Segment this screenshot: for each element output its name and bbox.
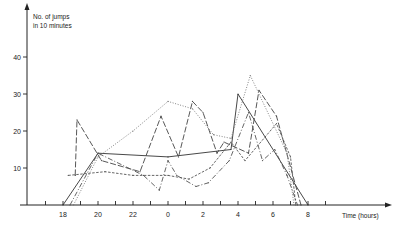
series-dotted-point: [132, 130, 133, 131]
series-long-dash-point: [216, 153, 217, 154]
series-long-dash-point: [202, 112, 203, 113]
series-short-dash-point: [290, 156, 291, 157]
series-dotted-point: [167, 101, 168, 102]
series-long-dash-point: [160, 116, 161, 117]
x-tick-label: 18: [59, 211, 67, 218]
x-axis: [20, 203, 392, 208]
x-tick-label: 0: [166, 211, 170, 218]
series-dotted-point: [293, 204, 294, 205]
y-axis-title-line-2: in 10 minutes: [33, 22, 72, 29]
series-long-dash-point: [248, 153, 249, 154]
series-solid-point: [62, 204, 63, 205]
series-solid-point: [307, 204, 308, 205]
series-dotted-point: [192, 108, 193, 109]
x-tick-label: 8: [306, 211, 310, 218]
series-short-dash-point: [276, 123, 277, 124]
series-short-dash: [68, 123, 297, 206]
series-dash-dot-point: [167, 160, 168, 161]
series-short-dash-point: [244, 160, 245, 161]
series-long-dash-point: [139, 171, 140, 172]
series-solid-line: [63, 94, 308, 205]
series-dash-dot-point: [229, 160, 230, 161]
series-dash-dot-point: [208, 182, 209, 183]
y-axis: [25, 3, 30, 205]
series-long-dash-point: [178, 156, 179, 157]
series-dotted-point: [73, 204, 74, 205]
series-dotted-point: [230, 138, 231, 139]
x-tick-label: 4: [236, 211, 240, 218]
x-tick-label: 20: [94, 211, 102, 218]
y-tick-label: 30: [13, 91, 21, 98]
series-dash-dot-point: [286, 175, 287, 176]
series-dotted-point: [250, 75, 251, 76]
series-dotted-point: [97, 156, 98, 157]
line-chart: No. of jumps in 10 minutes Time (hours) …: [0, 0, 401, 225]
series-dotted-point: [213, 134, 214, 135]
y-tick-label: 10: [13, 165, 21, 172]
series-dash-dot-point: [195, 186, 196, 187]
series-short-dash-point: [188, 179, 189, 180]
y-tick-label: 40: [13, 54, 21, 61]
y-ticks: 10203040: [13, 54, 27, 172]
series-dash-dot-point: [97, 153, 98, 154]
series-short-dash-point: [295, 204, 296, 205]
series-dash-dot-point: [176, 175, 177, 176]
series-dash-dot: [69, 112, 298, 206]
series-long-dash-point: [76, 119, 77, 120]
series-long-dash-point: [101, 160, 102, 161]
series-long-dash-point: [300, 204, 301, 205]
series-dotted-line: [74, 76, 295, 206]
series-dash-dot-line: [70, 113, 298, 206]
series-long-dash-point: [258, 90, 259, 91]
y-axis-arrowhead: [25, 3, 30, 10]
series-solid: [62, 93, 308, 205]
series-long-dash-point: [192, 101, 193, 102]
series-solid-point: [230, 149, 231, 150]
series-dash-dot-point: [69, 204, 70, 205]
series-dotted-point: [286, 153, 287, 154]
x-ticks: 18202202468: [46, 201, 326, 218]
y-tick-label: 20: [13, 128, 21, 135]
x-tick-label: 22: [129, 211, 137, 218]
series-dash-dot-point: [262, 160, 263, 161]
series-short-dash-line: [68, 124, 295, 205]
series-solid-point: [167, 156, 168, 157]
series-long-dash-point: [276, 116, 277, 117]
series-long-dash-point: [223, 142, 224, 143]
series-short-dash-point: [104, 171, 105, 172]
series-dash-dot-point: [297, 204, 298, 205]
series-short-dash-point: [167, 175, 168, 176]
series-dash-dot-point: [248, 112, 249, 113]
series-short-dash-point: [132, 175, 133, 176]
series-short-dash-point: [209, 167, 210, 168]
series-short-dash-point: [68, 175, 69, 176]
y-axis-title-line-1: No. of jumps: [33, 13, 70, 21]
series-layer: [62, 75, 308, 206]
x-tick-label: 6: [271, 211, 275, 218]
x-axis-arrowhead: [385, 203, 392, 208]
series-short-dash-point: [230, 142, 231, 143]
x-axis-title: Time (hours): [342, 212, 379, 220]
series-dash-dot-point: [274, 149, 275, 150]
series-solid-point: [237, 93, 238, 94]
series-dotted: [73, 75, 295, 206]
x-tick-label: 2: [201, 211, 205, 218]
series-dash-dot-point: [159, 190, 160, 191]
series-long-dash-point: [75, 175, 76, 176]
